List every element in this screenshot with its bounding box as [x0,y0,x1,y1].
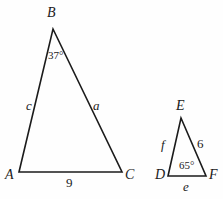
side-label-ab-c: c [26,99,32,112]
side-label-df-e: e [183,180,189,193]
side-label-de-f: f [161,138,165,151]
side-label-ef-6: 6 [197,137,204,150]
angle-label-d-65: 65° [179,160,194,171]
vertex-label-e: E [176,99,185,113]
vertex-label-d: D [155,168,165,182]
geometry-figure: B A C 37° c a 9 E D F f 6 e 65° [0,0,223,199]
side-label-bc-a: a [93,99,100,112]
vertex-label-f: F [209,168,218,182]
triangle-abc-outline [19,29,122,172]
side-label-ac-9: 9 [66,176,73,189]
vertex-label-b: B [47,6,56,20]
vertex-label-a: A [5,168,14,182]
vertex-label-c: C [125,168,134,182]
angle-label-b-37: 37° [48,50,63,61]
